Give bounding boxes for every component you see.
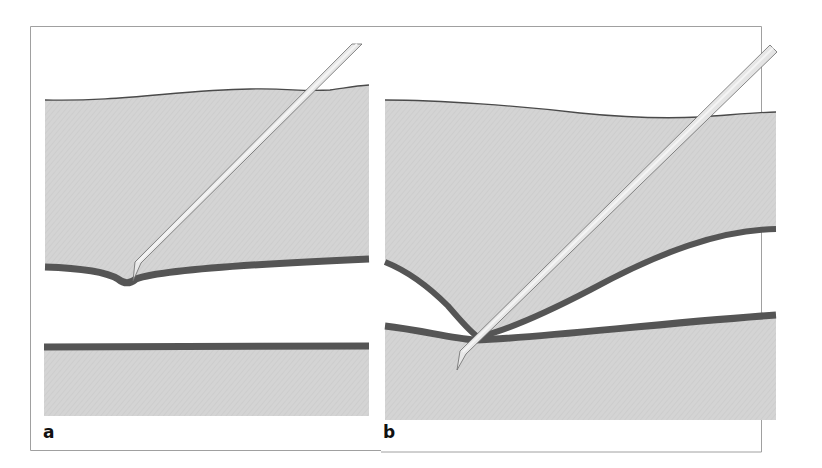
panel-b: [385, 45, 777, 420]
panel-a-label: a: [43, 424, 54, 441]
panel-a-lower-membrane: [44, 346, 369, 347]
panel-b-label: b: [383, 424, 395, 441]
panel-a-upper-tissue: [45, 85, 369, 280]
panel-a: [44, 44, 369, 416]
panel-a-lower-tissue: [44, 343, 369, 416]
figure-svg: [0, 0, 822, 468]
